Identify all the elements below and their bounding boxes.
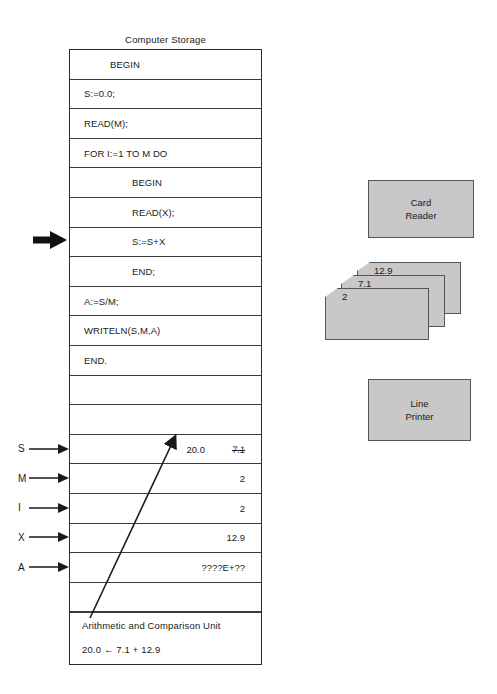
memory-row-instruction: END; — [70, 257, 261, 287]
variable-pointer-i: I — [18, 501, 70, 515]
variable-label: X — [18, 532, 29, 543]
memory-row-instruction: BEGIN — [70, 168, 261, 198]
memory-row-variable: 12.9 — [70, 524, 261, 554]
memory-row-variable: 2 — [70, 464, 261, 494]
variable-arrow-icon — [29, 472, 69, 484]
memory-row-instruction: BEGIN — [70, 50, 261, 80]
variable-value: ????E+?? — [201, 562, 261, 573]
memory-row-instruction: S:=S+X — [70, 228, 261, 258]
card-reader-line1: Card — [411, 196, 432, 209]
punch-card-value: 7.1 — [358, 278, 371, 289]
variable-value: 2 — [240, 503, 261, 514]
storage-title: Computer Storage — [69, 34, 262, 45]
line-printer-line2: Printer — [406, 410, 434, 423]
variable-arrow-icon — [29, 561, 69, 573]
variable-label: M — [18, 473, 29, 484]
instruction-text: END; — [70, 266, 155, 277]
instruction-text: WRITELN(S,M,A) — [70, 325, 160, 336]
memory-row-empty — [70, 376, 261, 406]
variable-arrow-icon — [29, 531, 69, 543]
variable-pointer-s: S — [18, 442, 70, 456]
acu-label: Arithmetic and Comparison Unit — [82, 620, 261, 631]
variable-pointer-m: M — [18, 471, 70, 485]
variable-label: A — [18, 562, 29, 573]
instruction-text: READ(M); — [70, 118, 128, 129]
memory-row-variable: ????E+?? — [70, 553, 261, 583]
acu-expression: 20.0 ← 7.1 + 12.9 — [82, 644, 261, 655]
memory-row-instruction: FOR I:=1 TO M DO — [70, 139, 261, 169]
punch-card-value: 12.9 — [374, 265, 393, 276]
instruction-text: S:=S+X — [70, 236, 165, 247]
variable-label: I — [18, 502, 29, 513]
memory-row-empty — [70, 405, 261, 435]
instruction-text: A:=S/M; — [70, 296, 119, 307]
variable-pointer-a: A — [18, 560, 70, 574]
instruction-text: READ(X); — [70, 207, 175, 218]
card-reader-line2: Reader — [405, 209, 436, 222]
line-printer-line1: Line — [411, 397, 429, 410]
arithmetic-comparison-unit: Arithmetic and Comparison Unit20.0 ← 7.1… — [70, 612, 261, 664]
punch-card-value: 2 — [342, 291, 347, 302]
line-printer-device: Line Printer — [368, 379, 471, 441]
instruction-text: FOR I:=1 TO M DO — [70, 148, 167, 159]
memory-row-instruction: A:=S/M; — [70, 287, 261, 317]
instruction-text: END. — [70, 355, 107, 366]
memory-row-variable: 2 — [70, 494, 261, 524]
variable-value: 2 — [240, 473, 261, 484]
card-reader-device: Card Reader — [368, 180, 474, 238]
memory-row-instruction: END. — [70, 346, 261, 376]
instruction-text: S:=0.0; — [70, 88, 115, 99]
variable-value: 12.9 — [227, 532, 262, 543]
memory-row-empty — [70, 583, 261, 613]
instruction-text: BEGIN — [70, 59, 140, 70]
memory-row-instruction: S:=0.0; — [70, 80, 261, 110]
execution-pointer-arrow — [33, 230, 68, 250]
memory-row-instruction: READ(X); — [70, 198, 261, 228]
memory-row-instruction: WRITELN(S,M,A) — [70, 316, 261, 346]
variable-label: S — [18, 443, 29, 454]
variable-pointer-x: X — [18, 530, 70, 544]
instruction-text: BEGIN — [70, 177, 162, 188]
variable-value: 7.1 — [231, 444, 261, 455]
punch-card: 2 — [325, 288, 429, 340]
variable-arrow-icon — [29, 443, 69, 455]
memory-row-variable: 20.07.1 — [70, 435, 261, 465]
memory-row-instruction: READ(M); — [70, 109, 261, 139]
computer-storage-box: BEGINS:=0.0;READ(M);FOR I:=1 TO M DOBEGI… — [69, 49, 262, 665]
variable-new-value: 20.0 — [187, 444, 206, 455]
variable-arrow-icon — [29, 502, 69, 514]
